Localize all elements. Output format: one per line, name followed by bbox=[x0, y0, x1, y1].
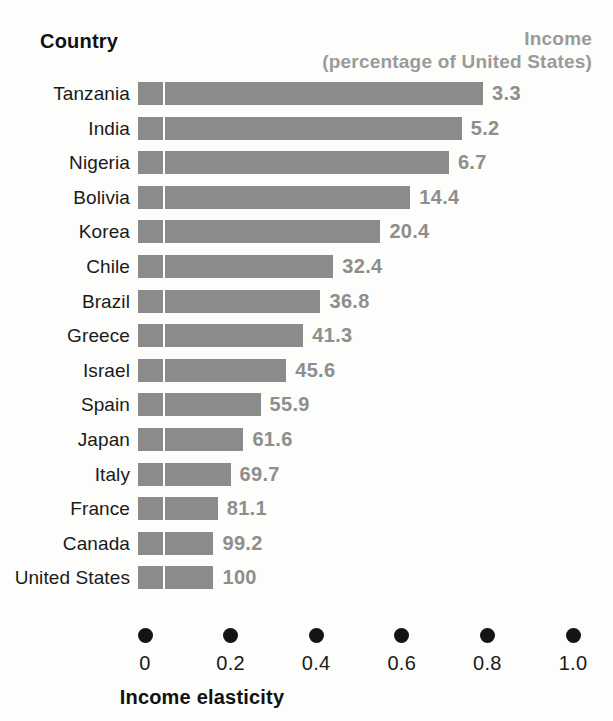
country-label: Italy bbox=[0, 464, 130, 486]
country-label: France bbox=[0, 498, 130, 520]
income-percentage-value: 20.4 bbox=[389, 220, 429, 243]
country-label: Japan bbox=[0, 429, 130, 451]
bar-gridline-zero bbox=[163, 151, 165, 174]
elasticity-bar bbox=[138, 255, 333, 278]
elasticity-bar bbox=[138, 497, 218, 520]
income-percentage-value: 14.4 bbox=[419, 186, 459, 209]
country-label: India bbox=[0, 118, 130, 140]
chart-row: India5.2 bbox=[0, 115, 613, 147]
income-percentage-value: 69.7 bbox=[240, 463, 280, 486]
chart-row: Nigeria6.7 bbox=[0, 149, 613, 181]
bar-gridline-zero bbox=[163, 393, 165, 416]
axis-tick-dot bbox=[394, 628, 409, 643]
chart-row: Spain55.9 bbox=[0, 391, 613, 423]
column-header-income-subtitle: (percentage of United States) bbox=[0, 51, 592, 73]
axis-tick-dot bbox=[138, 628, 153, 643]
axis-tick-label: 1.0 bbox=[543, 652, 603, 675]
country-label: Tanzania bbox=[0, 83, 130, 105]
axis-tick-dot bbox=[566, 628, 581, 643]
income-percentage-value: 61.6 bbox=[252, 428, 292, 451]
bar-gridline-zero bbox=[163, 82, 165, 105]
chart-row: Bolivia14.4 bbox=[0, 184, 613, 216]
income-percentage-value: 55.9 bbox=[270, 393, 310, 416]
axis-tick-label: 0.8 bbox=[457, 652, 517, 675]
axis-tick-dot bbox=[480, 628, 495, 643]
country-label: Chile bbox=[0, 256, 130, 278]
income-percentage-value: 99.2 bbox=[222, 532, 262, 555]
income-percentage-value: 32.4 bbox=[342, 255, 382, 278]
elasticity-bar bbox=[138, 463, 231, 486]
country-label: Brazil bbox=[0, 291, 130, 313]
elasticity-bar bbox=[138, 220, 380, 243]
elasticity-bar bbox=[138, 151, 449, 174]
income-percentage-value: 81.1 bbox=[227, 497, 267, 520]
bar-gridline-zero bbox=[163, 290, 165, 313]
chart-row: Greece41.3 bbox=[0, 322, 613, 354]
country-label: Israel bbox=[0, 360, 130, 382]
country-label: Nigeria bbox=[0, 152, 130, 174]
bar-gridline-zero bbox=[163, 186, 165, 209]
chart-row: Canada99.2 bbox=[0, 530, 613, 562]
income-percentage-value: 5.2 bbox=[471, 117, 500, 140]
bar-gridline-zero bbox=[163, 497, 165, 520]
bar-gridline-zero bbox=[163, 255, 165, 278]
axis-tick-dot bbox=[223, 628, 238, 643]
bar-gridline-zero bbox=[163, 359, 165, 382]
axis-tick-dot bbox=[309, 628, 324, 643]
chart-row: France81.1 bbox=[0, 495, 613, 527]
income-percentage-value: 100 bbox=[222, 566, 256, 589]
country-label: Spain bbox=[0, 394, 130, 416]
column-header-income: Income bbox=[0, 28, 592, 50]
elasticity-bar bbox=[138, 393, 261, 416]
elasticity-bar bbox=[138, 290, 320, 313]
elasticity-bar bbox=[138, 82, 483, 105]
income-elasticity-bar-chart: Country Income (percentage of United Sta… bbox=[0, 0, 613, 721]
bar-gridline-zero bbox=[163, 117, 165, 140]
income-percentage-value: 45.6 bbox=[295, 359, 335, 382]
elasticity-bar bbox=[138, 566, 213, 589]
income-percentage-value: 41.3 bbox=[312, 324, 352, 347]
elasticity-bar bbox=[138, 186, 410, 209]
chart-row: Italy69.7 bbox=[0, 461, 613, 493]
country-label: Greece bbox=[0, 325, 130, 347]
country-label: United States bbox=[0, 567, 130, 589]
country-label: Canada bbox=[0, 533, 130, 555]
elasticity-bar bbox=[138, 359, 286, 382]
chart-row: Japan61.6 bbox=[0, 426, 613, 458]
elasticity-bar bbox=[138, 532, 213, 555]
income-percentage-value: 6.7 bbox=[458, 151, 487, 174]
income-percentage-value: 3.3 bbox=[492, 82, 521, 105]
country-label: Korea bbox=[0, 221, 130, 243]
chart-row: Tanzania3.3 bbox=[0, 80, 613, 112]
bar-gridline-zero bbox=[163, 324, 165, 347]
elasticity-bar bbox=[138, 428, 243, 451]
axis-tick-label: 0.6 bbox=[372, 652, 432, 675]
bar-gridline-zero bbox=[163, 532, 165, 555]
bar-gridline-zero bbox=[163, 566, 165, 589]
bar-gridline-zero bbox=[163, 220, 165, 243]
axis-tick-label: 0.4 bbox=[286, 652, 346, 675]
income-percentage-value: 36.8 bbox=[329, 290, 369, 313]
axis-tick-label: 0 bbox=[115, 652, 175, 675]
chart-row: Israel45.6 bbox=[0, 357, 613, 389]
chart-row: United States100 bbox=[0, 564, 613, 596]
country-label: Bolivia bbox=[0, 187, 130, 209]
bar-gridline-zero bbox=[163, 428, 165, 451]
chart-row: Korea20.4 bbox=[0, 218, 613, 250]
elasticity-bar bbox=[138, 117, 462, 140]
x-axis-title: Income elasticity bbox=[0, 686, 404, 709]
bar-gridline-zero bbox=[163, 463, 165, 486]
chart-row: Chile32.4 bbox=[0, 253, 613, 285]
chart-row: Brazil36.8 bbox=[0, 288, 613, 320]
axis-tick-label: 0.2 bbox=[201, 652, 261, 675]
